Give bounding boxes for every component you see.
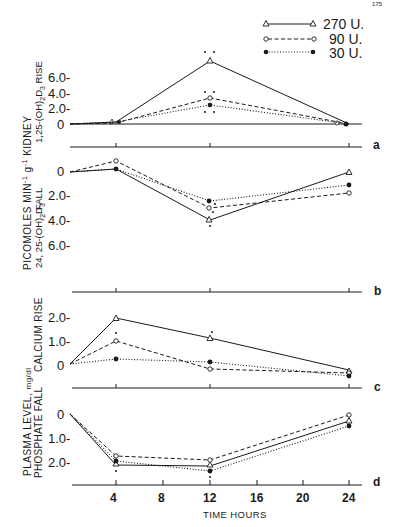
x-axis-title: TIME HOURS [203,509,267,520]
svg-text:0: 0 [57,117,64,132]
panel-d: 0 1.0- 2.0- d 4 8 12 16 20 24 TIME HOURS [48,407,380,520]
significance-markers [115,331,213,334]
ylabel-panel-c-d: PLASMA LEVEL, mg/dl CALCIUM RISE PHOSPHA… [22,297,44,478]
panel-c: 2.0- 1.0- 0 c [48,310,381,394]
open-circle-icon [264,37,268,41]
legend-item-270: 270 U. [263,16,364,32]
open-triangle-icon [310,21,316,27]
figure: 175 270 U. 90 U. 30 U. PICOMOLES MIN-1 g… [0,0,398,527]
svg-text:0: 0 [57,164,64,179]
legend-item-30: 30 U. [264,45,363,61]
panel-a: 6.0- 4.0- 2.0- 0 a [48,51,380,152]
svg-text:8: 8 [158,491,165,505]
svg-text:2.0-: 2.0- [48,455,70,470]
significance-markers [115,470,211,478]
panel-b: 0 2.0- 4.0- 6.0- b [48,159,381,298]
filled-circle-icon [264,50,269,55]
svg-text:270 U.: 270 U. [323,16,364,32]
svg-text:0: 0 [57,407,64,422]
svg-text:4.0-: 4.0- [48,86,70,101]
svg-text:16: 16 [250,491,264,505]
svg-text:24: 24 [342,491,356,505]
ylabel-panel-d: PHOSPHATE FALL [33,387,44,478]
svg-text:2.0-: 2.0- [48,101,70,116]
svg-text:6.0-: 6.0- [48,70,70,85]
ylabel-panel-c: CALCIUM RISE [33,297,44,372]
svg-text:20: 20 [296,491,310,505]
svg-text:2.0-: 2.0- [48,188,70,203]
svg-text:1.0-: 1.0- [48,334,70,349]
open-triangle-icon [263,21,269,27]
filled-circle-icon [311,50,316,55]
open-circle-icon [312,37,316,41]
legend: 270 U. 90 U. 30 U. [263,16,364,61]
ylabel-plasma: PLASMA LEVEL, mg/dl [22,367,33,476]
svg-text:2.0-: 2.0- [48,310,70,325]
svg-text:a: a [373,138,380,152]
ylabel-panel-a-b: PICOMOLES MIN-1 g-1 KIDNEY 1,25-(OH)2D3 … [21,61,46,270]
svg-text:d: d [373,475,380,489]
svg-text:c: c [374,380,381,394]
page-marker: 175 [372,1,383,7]
svg-text:12: 12 [203,491,217,505]
ylabel-panel-b: 24, 25-(OH)2D3 [33,203,46,268]
svg-text:6.0-: 6.0- [48,238,70,253]
svg-text:b: b [374,284,381,298]
svg-text:0: 0 [57,358,64,373]
ylabel-shared: PICOMOLES MIN-1 g-1 KIDNEY [21,116,33,270]
svg-text:30 U.: 30 U. [329,45,362,61]
ylabel-panel-a: 1,25-(OH)2D3 RISE [33,61,46,143]
svg-text:1.0-: 1.0- [48,431,70,446]
svg-text:4.0-: 4.0- [48,213,70,228]
svg-text:4: 4 [110,491,117,505]
